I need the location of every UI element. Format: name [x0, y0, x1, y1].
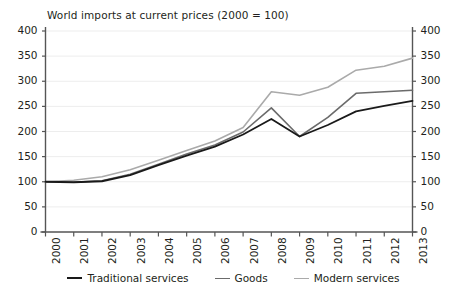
data-series [46, 58, 413, 182]
x-axis-tick-label: 2005 [191, 237, 203, 264]
series-line [46, 101, 413, 182]
y-axis-left-tick-label: 0 [8, 225, 38, 237]
x-axis-tick-label: 2008 [276, 237, 288, 264]
y-axis-right-tick-label: 400 [421, 24, 451, 36]
x-axis-tick-label: 2004 [163, 237, 175, 264]
legend-line-swatch-icon [215, 278, 230, 279]
legend-item[interactable]: Goods [215, 272, 268, 284]
x-axis-tick-label: 2007 [248, 237, 260, 264]
y-axis-right-tick-label: 250 [421, 99, 451, 111]
x-axis-tick-label: 2000 [50, 237, 62, 264]
legend-label: Goods [235, 272, 268, 284]
y-axis-left-tick-label: 250 [8, 99, 38, 111]
x-axis-tick-label: 2010 [332, 237, 344, 264]
x-axis-tick-label: 2001 [78, 237, 90, 264]
chart-legend: Traditional servicesGoodsModern services [0, 272, 467, 284]
line-chart: World imports at current prices (2000 = … [0, 0, 467, 300]
x-axis-tick-label: 2012 [389, 237, 401, 264]
x-axis-tick-label: 2003 [135, 237, 147, 264]
legend-label: Traditional services [87, 272, 188, 284]
x-axis-tick-label: 2006 [219, 237, 231, 264]
x-axis-tick-label: 2009 [304, 237, 316, 264]
series-line [46, 90, 413, 182]
legend-label: Modern services [314, 272, 400, 284]
legend-item[interactable]: Traditional services [67, 272, 188, 284]
axes [41, 27, 418, 232]
y-axis-left-tick-label: 50 [8, 200, 38, 212]
series-line [46, 58, 413, 182]
y-axis-left-tick-label: 300 [8, 74, 38, 86]
y-axis-right-tick-label: 350 [421, 49, 451, 61]
legend-line-swatch-icon [294, 278, 309, 279]
y-axis-left-tick-label: 100 [8, 175, 38, 187]
y-axis-left-tick-label: 350 [8, 49, 38, 61]
x-axis-tick-label: 2013 [417, 237, 429, 264]
y-axis-right-tick-label: 150 [421, 150, 451, 162]
y-axis-right-tick-label: 300 [421, 74, 451, 86]
y-axis-right-tick-label: 200 [421, 125, 451, 137]
y-axis-right-tick-label: 100 [421, 175, 451, 187]
y-axis-left-tick-label: 200 [8, 125, 38, 137]
y-axis-right-tick-label: 0 [421, 225, 451, 237]
legend-item[interactable]: Modern services [294, 272, 400, 284]
y-axis-left-tick-label: 150 [8, 150, 38, 162]
x-axis-tick-label: 2011 [361, 237, 373, 264]
x-axis-tick-label: 2002 [106, 237, 118, 264]
legend-line-swatch-icon [67, 277, 82, 279]
y-axis-left-tick-label: 400 [8, 24, 38, 36]
y-axis-right-tick-label: 50 [421, 200, 451, 212]
